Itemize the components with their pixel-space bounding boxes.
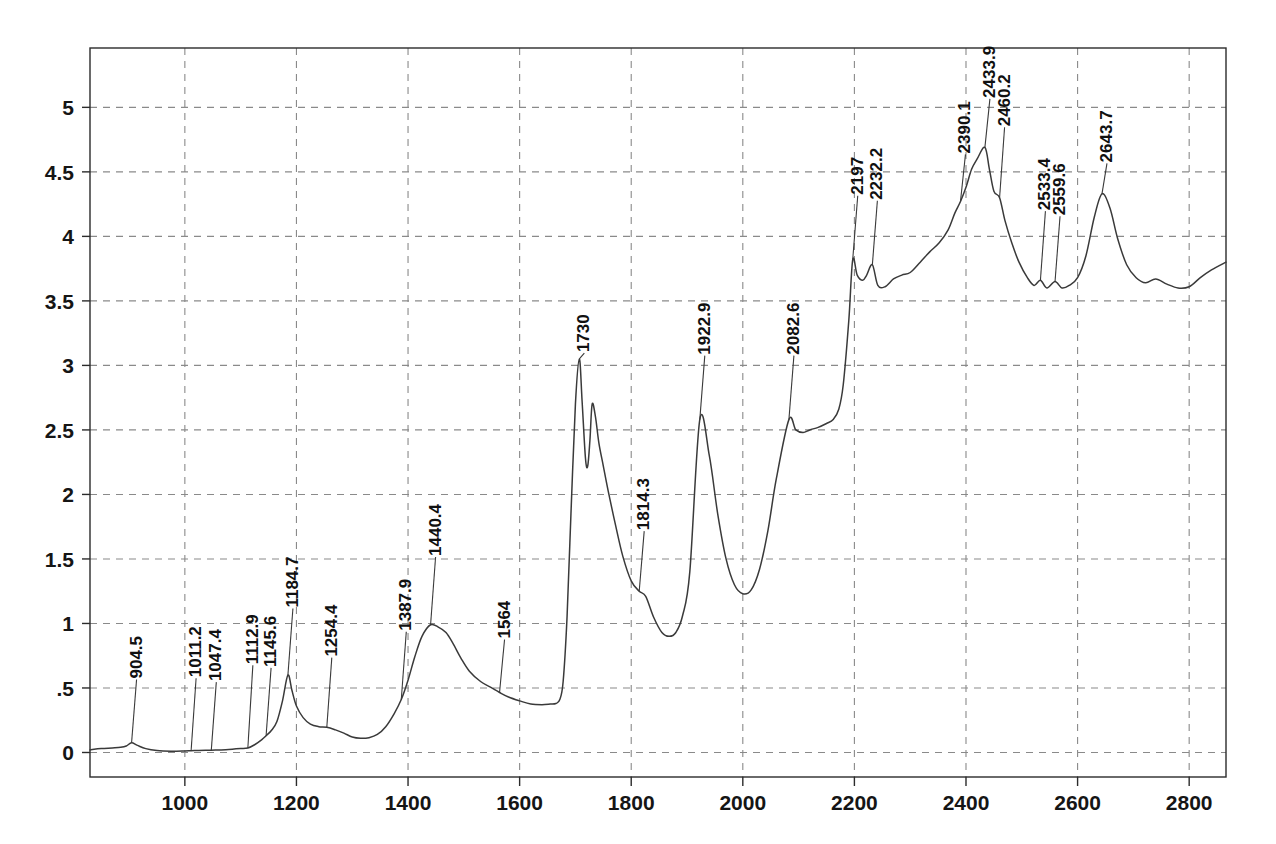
peak-label: 1730 (574, 314, 593, 352)
peak-label: 1922.9 (695, 303, 714, 355)
x-axis-ticks (185, 777, 1189, 786)
vertical-gridlines (185, 48, 1189, 777)
peak-label: 1047.4 (206, 629, 225, 682)
annotation-leader (431, 557, 436, 625)
annotation-leader (853, 196, 858, 260)
annotation-leader (1102, 163, 1107, 193)
annotation-leader (789, 356, 794, 420)
y-axis-ticks (82, 107, 90, 752)
peak-label: 1564 (495, 600, 514, 638)
y-tick-label: 4 (62, 225, 74, 248)
peak-label: 904.5 (127, 636, 146, 679)
annotation-leader (1055, 216, 1060, 281)
peak-label: 2460.2 (995, 74, 1014, 126)
y-tick-label: 3.5 (45, 290, 75, 313)
y-tick-label: 5 (62, 96, 74, 119)
peak-label: 1011.2 (186, 626, 205, 677)
annotation-leader (211, 682, 216, 750)
spectrum-chart: 0.511.522.533.544.55 1000120014001600180… (0, 0, 1276, 844)
annotation-leader (872, 201, 877, 265)
spectrum-plot: 0.511.522.533.544.55 1000120014001600180… (0, 0, 1276, 844)
peak-label: 2559.6 (1050, 163, 1069, 215)
peak-label: 1387.9 (396, 579, 415, 631)
annotation-leader (288, 609, 293, 676)
y-tick-label: .5 (56, 677, 74, 700)
annotation-leader (500, 640, 505, 693)
y-tick-label: 3 (62, 354, 74, 377)
peak-label: 1440.4 (426, 503, 445, 556)
annotation-leader (266, 668, 271, 736)
peak-label: 2232.2 (867, 148, 886, 200)
peak-label: 1184.7 (283, 556, 302, 607)
x-tick-label: 2800 (1166, 791, 1213, 814)
y-tick-label: 1 (62, 612, 74, 635)
y-tick-label: 2 (62, 483, 74, 506)
y-tick-label: 2.5 (45, 419, 75, 442)
y-tick-label: 1.5 (45, 548, 75, 571)
x-tick-label: 2600 (1054, 791, 1101, 814)
annotation-leader (327, 658, 332, 728)
x-tick-label: 1000 (161, 791, 208, 814)
x-axis-tick-labels: 1000120014001600180020002200240026002800 (161, 791, 1212, 814)
annotation-leader (579, 353, 584, 359)
annotation-leader (1000, 127, 1005, 197)
y-tick-label: 4.5 (45, 161, 75, 184)
y-tick-label: 0 (62, 741, 74, 764)
x-tick-label: 2400 (943, 791, 990, 814)
peak-label: 1112.9 (243, 614, 262, 664)
annotation-leader (1040, 211, 1045, 280)
annotation-leader (248, 665, 253, 748)
peak-label: 1814.3 (634, 478, 653, 530)
annotation-leader (639, 531, 644, 591)
annotation-leader (132, 680, 137, 743)
x-tick-label: 1400 (385, 791, 432, 814)
y-axis-tick-labels: 0.511.522.533.544.55 (45, 96, 75, 764)
annotation-leader (985, 99, 990, 147)
peak-label: 1145.6 (261, 616, 280, 667)
peak-label: 1254.4 (322, 604, 341, 657)
x-tick-label: 2200 (831, 791, 878, 814)
annotation-leader (191, 678, 196, 750)
peak-label: 2643.7 (1097, 110, 1116, 162)
peak-label: 2197 (848, 157, 867, 195)
x-tick-label: 2000 (719, 791, 766, 814)
x-tick-label: 1200 (273, 791, 320, 814)
peak-label: 2082.6 (784, 303, 803, 355)
x-tick-label: 1800 (608, 791, 655, 814)
x-tick-label: 1600 (496, 791, 543, 814)
peak-annotations: 904.51011.21047.41112.91145.61184.71254.… (127, 46, 1116, 751)
peak-label: 2390.1 (955, 101, 974, 153)
